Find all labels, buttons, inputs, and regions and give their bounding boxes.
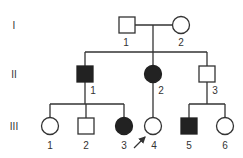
individual-III-4-female-proband — [145, 118, 162, 135]
generation-label-1: I — [13, 20, 16, 31]
individual-III-5-male-affected — [181, 118, 197, 134]
label-III-5: 5 — [186, 140, 192, 151]
label-III-4: 4 — [151, 140, 157, 151]
label-I-2: 2 — [178, 37, 184, 48]
pedigree-chart: I II III — [0, 0, 243, 158]
individual-III-6-female-unaffected — [217, 118, 234, 135]
proband-arrow-icon — [134, 137, 145, 148]
generation-labels: I II III — [10, 20, 18, 132]
individuals — [42, 17, 234, 135]
label-III-6: 6 — [222, 140, 228, 151]
generation-label-2: II — [11, 69, 17, 80]
individual-I-2-female-unaffected — [173, 17, 190, 34]
individual-II-2-female-affected — [145, 66, 162, 83]
individual-I-1-male-unaffected — [119, 17, 135, 33]
label-III-3: 3 — [121, 140, 127, 151]
individual-II-1-male-affected — [77, 66, 93, 82]
individual-labels: 1 2 1 2 3 1 2 3 4 5 6 — [47, 37, 228, 151]
individual-III-2-male-unaffected — [78, 118, 94, 134]
generation-label-3: III — [10, 121, 18, 132]
label-III-1: 1 — [47, 140, 53, 151]
label-II-2: 2 — [158, 85, 164, 96]
label-II-3: 3 — [212, 85, 218, 96]
individual-III-1-female-unaffected — [42, 118, 59, 135]
individual-II-3-male-unaffected — [199, 66, 215, 82]
label-II-1: 1 — [90, 85, 96, 96]
individual-III-3-female-affected — [116, 118, 133, 135]
label-III-2: 2 — [83, 140, 89, 151]
label-I-1: 1 — [123, 37, 129, 48]
